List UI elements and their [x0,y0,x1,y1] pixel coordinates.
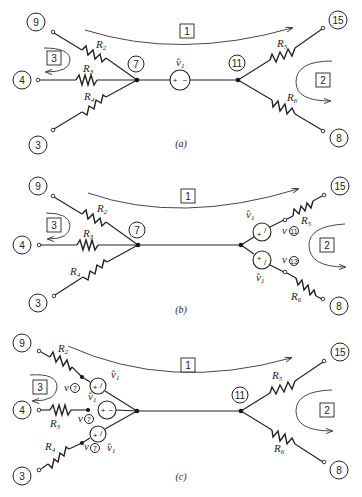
v7-bottom-node-label: 7 [93,445,97,452]
caption-c: (c) [175,471,187,483]
mesh-3-label: 3 [37,382,43,393]
r5-label: R5 [300,214,312,228]
node-3-label: 3 [35,140,41,151]
resistor-r2 [50,352,72,370]
r6-label: R6 [273,442,285,456]
panel-b: 1 3 2 9 R2 4 R3 3 R4 7 [13,177,349,316]
mesh-2-label: 2 [324,240,330,251]
terminal-v13 [283,270,287,274]
panel-c: 1 3 2 9 R2 + / v̂1 v 7 4 R3 + [13,334,349,485]
terminal-8 [321,297,325,301]
voltage-label-v11: v [282,224,287,236]
r5-label: R5 [271,369,283,383]
source-top-plus: + [257,230,262,239]
mesh-1-label: 1 [185,191,191,202]
terminal-15 [321,26,325,30]
mesh-3-label: 3 [51,220,57,231]
terminal-4 [36,78,40,82]
node-8-label: 8 [336,133,342,144]
terminal-9 [37,349,41,353]
resistor-r5 [270,381,295,394]
node-11-label: 11 [235,390,246,401]
resistor-r3 [50,405,71,415]
r2-label: R2 [95,38,107,52]
node-4-label: 4 [19,405,25,416]
node-9-label: 9 [33,17,39,28]
mesh-3-label: 3 [51,53,57,64]
node-7-label: 7 [134,225,140,236]
voltage-label-v13: v [282,253,287,265]
source-minus: − [183,76,188,85]
v7-top-node-label: 7 [73,385,77,392]
node-7-label: 7 [133,59,139,70]
resistor-r4 [83,260,107,280]
caption-a: (a) [175,138,187,150]
node-11-label: 11 [232,58,243,69]
source-bottom-plus: + [93,431,98,440]
source-top-plus: + [93,383,98,392]
resistor-r6 [296,278,316,296]
resistor-r3 [77,240,98,250]
source-top-label: v̂1 [111,368,120,382]
source-top-label: v̂1 [246,208,255,222]
r2-label: R2 [57,342,69,356]
mesh-1-arrow [68,346,291,372]
voltage-label-v7-mid: v [78,412,83,424]
caption-b: (b) [175,304,187,316]
terminal-v11 [283,218,287,222]
node-3-label: 3 [35,298,41,309]
mesh-2-label: 2 [320,75,326,86]
r3-label: R3 [82,227,94,241]
circuit-figure: 1 3 2 9 R2 4 R3 3 R4 7 [0,0,362,497]
terminal-4 [37,408,41,412]
r3-label: R3 [82,62,94,76]
node-8-label: 8 [336,301,342,312]
r4-label: R4 [69,265,81,279]
terminal-4 [37,243,41,247]
r6-label: R6 [290,290,302,304]
node-15-label: 15 [332,15,344,26]
node-4-label: 4 [19,240,25,251]
r3-label: R3 [49,417,61,431]
terminal-8 [321,129,325,133]
mesh-2-label: 2 [324,405,330,416]
v11-node-label: 11 [290,228,297,235]
source-bottom-label: v̂1 [256,271,265,285]
r4-label: R4 [44,440,56,454]
resistor-r3 [76,75,97,85]
terminal-15 [322,193,326,197]
r2-label: R2 [96,202,108,216]
source-label-v1: v̂1 [176,56,185,70]
voltage-label-v7-bottom: v [84,440,89,452]
source-mid-plus: + [101,406,106,415]
terminal-8 [322,460,326,464]
mesh-1-label: 1 [184,26,190,37]
node-9-label: 9 [19,338,25,349]
node-15-label: 15 [334,347,346,358]
terminal-15 [322,359,326,363]
v7-mid-node-label: 7 [87,416,91,423]
v13-node-label: 13 [290,258,298,265]
node-15-label: 15 [334,181,346,192]
panel-a: 1 3 2 9 R2 4 R3 3 R4 7 [13,11,348,154]
source-mid-minus: − [109,406,114,415]
node-3-label: 3 [19,471,25,482]
node-8-label: 8 [336,465,342,476]
source-bottom-plus: + [257,254,262,263]
r4-label: R4 [83,90,95,104]
voltage-label-v7-top: v [64,381,69,393]
source-plus: + [173,76,178,85]
resistor-r5 [270,48,295,62]
node-9-label: 9 [35,181,41,192]
r5-label: R5 [276,37,288,51]
node-4-label: 4 [19,75,25,86]
mesh-1-label: 1 [185,360,191,371]
terminal-3 [37,468,41,472]
r6-label: R6 [286,91,298,105]
v7-dot-mid [86,408,90,412]
source-bottom-label: v̂1 [107,441,116,455]
